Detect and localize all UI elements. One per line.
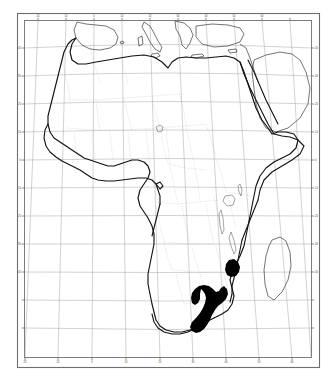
map-background xyxy=(0,0,336,384)
map-canvas: 20 10 0 10 20 30 40 50 60 20 10 0 10 20 … xyxy=(0,0,336,384)
map-figure: 20 10 0 10 20 30 40 50 60 20 10 0 10 20 … xyxy=(0,0,336,384)
